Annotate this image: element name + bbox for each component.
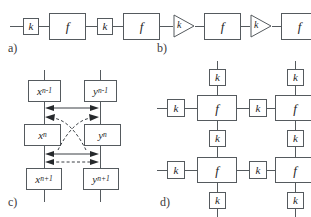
panel-d-wire-r1c0-f-to-bottom: [217, 183, 218, 192]
panel-d-gain-r0c0-right[interactable]: k: [249, 99, 267, 117]
panel-d-wire-r1c0-left-stub: [157, 170, 167, 171]
panel-c-y-spine-mid2: [100, 146, 101, 168]
panel-c-node-x-n-plus-1-sub: n+1: [40, 175, 53, 183]
panel-d: k k f k k k f k k k f k k f k k d): [155, 58, 311, 217]
panel-a-gain-block-1[interactable]: k: [23, 18, 39, 35]
panel-c-arrowhead-lower-left: [45, 151, 54, 157]
panel-c: xn-1 xn xn+1 yn-1 yn yn+1: [0, 58, 155, 217]
panel-c-node-y-n-plus-1-sub: n+1: [97, 175, 110, 183]
panel-c-arrowhead-dashed-lower-right: [90, 159, 99, 165]
panel-c-node-x-n-minus-1[interactable]: xn-1: [28, 80, 61, 102]
panel-c-node-y-n-minus-1-sub: n-1: [98, 87, 108, 95]
panel-d-gain-r1c0-bottom[interactable]: k: [209, 192, 226, 209]
panel-c-x-spine-mid1: [44, 102, 45, 124]
panel-d-wire-r1c0-left-to-f: [185, 170, 197, 171]
panel-d-wire-r0c0-left-to-f: [185, 108, 197, 109]
panel-d-gain-r0c1-bottom[interactable]: k: [287, 130, 304, 147]
panel-c-node-y-n-plus-1[interactable]: yn+1: [83, 168, 119, 190]
panel-d-wire-r0c1-top-to-f: [295, 86, 296, 95]
panel-b-label: b): [157, 42, 167, 54]
panel-d-wire-r0c0-bottom-down: [217, 147, 218, 157]
panel-b-amplifier-2-label: k: [254, 20, 258, 30]
panel-b-wire-amp1-f1: [195, 26, 204, 27]
panel-c-node-y-n-sub: n: [103, 131, 107, 139]
panel-a-wire-in: [10, 26, 23, 27]
panel-c-node-x-n-minus-1-sub: n-1: [42, 87, 52, 95]
panel-c-y-spine-bottom: [100, 190, 101, 202]
panel-d-wire-r0c1-top-stub: [295, 61, 296, 69]
figure-root: k f k f a) k f k f b): [0, 0, 311, 217]
panel-b-amplifier-2[interactable]: k: [250, 14, 272, 38]
panel-d-wire-r1c1-left-to-f: [267, 170, 275, 171]
panel-c-y-spine-top: [100, 70, 101, 80]
panel-c-x-spine-bottom: [44, 190, 45, 202]
panel-d-label: d): [160, 196, 170, 208]
panel-a: k f k f a): [0, 0, 155, 58]
panel-d-wire-r0c0-f-to-right: [237, 108, 249, 109]
panel-d-wire-r0c1-bottom-down: [295, 147, 296, 157]
panel-a-label: a): [8, 42, 17, 54]
panel-d-wire-r1c0-bottom-stub: [217, 209, 218, 217]
panel-b-amplifier-1[interactable]: k: [173, 14, 195, 38]
panel-c-x-spine-top: [44, 70, 45, 80]
panel-c-y-spine-mid1: [100, 102, 101, 124]
panel-d-gain-r0c1-top[interactable]: k: [287, 69, 304, 86]
panel-c-arrowhead-dashed-lower-left: [45, 159, 54, 165]
panel-d-map-r0c1[interactable]: f: [275, 95, 311, 121]
panel-d-wire-r0c1-f-to-bottom: [295, 121, 296, 130]
panel-d-map-r1c1[interactable]: f: [275, 157, 311, 183]
panel-d-wire-r1c1-bottom-stub: [295, 209, 296, 217]
panel-d-wire-r0c1-left-to-f: [267, 108, 275, 109]
panel-a-map-block-1[interactable]: f: [49, 13, 86, 40]
panel-c-arrowhead-upper-right: [90, 105, 99, 111]
panel-b-wire-f1-amp2: [241, 26, 250, 27]
panel-d-gain-r1c0-left[interactable]: k: [167, 161, 185, 179]
panel-c-node-x-n[interactable]: xn: [24, 124, 61, 146]
panel-b-map-block-1[interactable]: f: [204, 13, 241, 40]
panel-d-wire-r1c1-f-to-bottom: [295, 183, 296, 192]
panel-d-gain-r0c0-bottom[interactable]: k: [209, 130, 226, 147]
panel-c-arrowhead-lower-right: [90, 151, 99, 157]
panel-d-gain-r1c1-bottom[interactable]: k: [287, 192, 304, 209]
panel-d-gain-r0c0-left[interactable]: k: [167, 99, 185, 117]
panel-d-wire-r0c0-top-to-f: [217, 86, 218, 95]
panel-d-map-r1c0[interactable]: f: [197, 157, 237, 183]
panel-d-gain-r0c0-top[interactable]: k: [209, 69, 226, 86]
panel-c-label: c): [8, 196, 17, 208]
panel-a-wire-f1-k2: [86, 26, 97, 27]
panel-c-node-x-n-plus-1[interactable]: xn+1: [26, 168, 62, 190]
panel-a-wire-k1-f1: [39, 26, 49, 27]
panel-d-wire-r0c0-top-stub: [217, 61, 218, 69]
panel-a-wire-k2-f2: [113, 26, 123, 27]
panel-c-node-x-n-sub: n: [43, 131, 47, 139]
panel-b-amplifier-1-label: k: [177, 20, 181, 30]
panel-b: k f k f b): [155, 0, 311, 58]
panel-d-wire-r0c0-left-stub: [157, 108, 167, 109]
panel-c-arrowhead-upper-left: [45, 105, 54, 111]
panel-d-map-r0c0[interactable]: f: [197, 95, 237, 121]
panel-c-arrowhead-dashed-upper-right: [89, 114, 99, 121]
panel-c-node-y-n[interactable]: yn: [84, 124, 121, 146]
panel-a-gain-block-2[interactable]: k: [97, 18, 113, 35]
panel-b-map-block-2[interactable]: f: [281, 13, 311, 40]
panel-c-x-spine-mid2: [44, 146, 45, 168]
panel-d-wire-r0c0-f-to-bottom: [217, 121, 218, 130]
panel-c-arrowhead-dashed-upper-left: [45, 114, 55, 121]
panel-b-wire-amp2-f2: [272, 26, 281, 27]
panel-d-gain-r1c0-right[interactable]: k: [249, 161, 267, 179]
panel-b-wire-in: [165, 26, 173, 27]
panel-d-wire-r1c0-f-to-right: [237, 170, 249, 171]
panel-c-node-y-n-minus-1[interactable]: yn-1: [84, 80, 117, 102]
